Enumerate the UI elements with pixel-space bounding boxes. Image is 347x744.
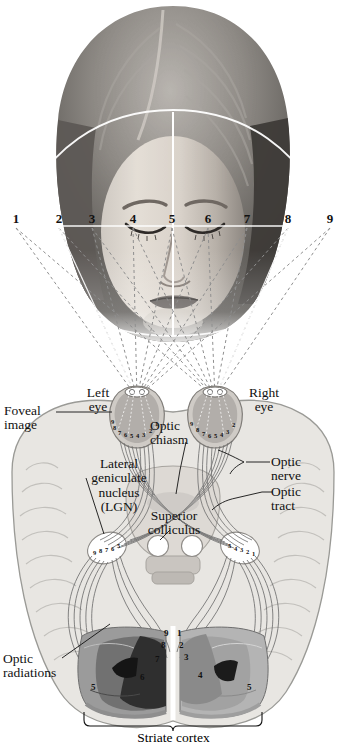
cortex-left-num-9: 9 xyxy=(164,628,169,638)
retina-left-num-4: 4 xyxy=(136,432,139,439)
field-number-4: 4 xyxy=(126,211,140,227)
label-striate-cortex: Striate cortex xyxy=(0,730,347,744)
retina-left-num-7: 7 xyxy=(118,429,121,436)
retina-right-num-8: 8 xyxy=(196,426,199,433)
cortex-right-num-5: 5 xyxy=(247,682,252,692)
label-optic-radiations: Optic radiations xyxy=(3,652,56,681)
retina-left-num-3: 3 xyxy=(142,431,145,438)
lgn-left-num-5: 5 xyxy=(117,542,120,549)
field-number-9: 9 xyxy=(323,211,337,227)
cortex-right-num-3: 3 xyxy=(184,652,189,662)
superior-colliculus-left xyxy=(148,536,169,557)
cortex-left-num-8: 8 xyxy=(161,640,166,650)
superior-colliculus-right xyxy=(182,536,203,557)
label-right-eye: Right eye xyxy=(240,386,288,415)
label-left-eye: Left eye xyxy=(78,386,118,415)
lgn-right-num-1: 1 xyxy=(252,550,255,557)
photo-head xyxy=(40,0,310,350)
lgn-right-num-2: 2 xyxy=(246,548,249,555)
cortex-left-num-5: 5 xyxy=(91,682,96,692)
field-number-7: 7 xyxy=(240,211,254,227)
label-superior-colliculus: Superior colliculus xyxy=(140,509,208,538)
retina-right-num-3: 3 xyxy=(226,428,229,435)
cortex-right-num-1: 1 xyxy=(177,628,182,638)
cortex-left-num-6: 6 xyxy=(140,672,145,682)
retina-right-num-4: 4 xyxy=(220,431,223,438)
label-optic-tract: Optic tract xyxy=(271,485,301,514)
retina-right-num-7: 7 xyxy=(202,430,205,437)
retina-right-num-6: 6 xyxy=(208,432,211,439)
head-photo-layer xyxy=(0,0,347,744)
field-number-5: 5 xyxy=(165,211,179,227)
lgn-left-num-6: 6 xyxy=(111,545,114,552)
striate-cortex-right xyxy=(180,627,268,717)
visual-pathway-figure: 1 2 3 4 5 6 7 8 9 Foveal image Left eye … xyxy=(0,0,347,744)
retina-left-num-1: 1 xyxy=(155,420,158,427)
label-lgn: Lateral geniculate nucleus (LGN) xyxy=(75,457,163,514)
lgn-right-num-3: 3 xyxy=(240,546,243,553)
field-number-2: 2 xyxy=(52,211,66,227)
lgn-right-num-5: 5 xyxy=(228,542,231,549)
lgn-left-num-9: 9 xyxy=(93,549,96,556)
lgn-left-num-8: 8 xyxy=(99,547,102,554)
label-foveal-image: Foveal image xyxy=(4,404,41,433)
cortex-right-num-4: 4 xyxy=(198,670,203,680)
field-number-8: 8 xyxy=(281,211,295,227)
striate-cortex-left xyxy=(78,627,166,717)
retina-right-num-9: 9 xyxy=(190,420,193,427)
field-number-6: 6 xyxy=(201,211,215,227)
retina-left-num-8: 8 xyxy=(113,424,116,431)
field-number-3: 3 xyxy=(85,211,99,227)
lgn-left-num-7: 7 xyxy=(105,546,108,553)
retina-right-num-5: 5 xyxy=(214,432,217,439)
field-number-1: 1 xyxy=(9,211,23,227)
retina-left-num-6: 6 xyxy=(124,431,127,438)
retina-left-num-2: 2 xyxy=(149,427,152,434)
cortex-left-num-7: 7 xyxy=(155,654,160,664)
cortex-right-num-2: 2 xyxy=(179,640,184,650)
retina-left-num-5: 5 xyxy=(130,432,133,439)
lgn-right-num-4: 4 xyxy=(234,545,237,552)
retina-right-num-2: 2 xyxy=(232,421,235,428)
label-optic-nerve: Optic nerve xyxy=(271,455,301,484)
